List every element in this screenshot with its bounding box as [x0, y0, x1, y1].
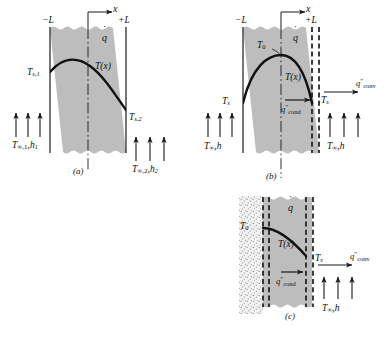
panel-a-caption: (a) [73, 167, 84, 176]
panel-c-curve-label: T(x) [278, 240, 294, 250]
panel-c-caption: (c) [285, 312, 295, 321]
panel-b-convection-arrows-right [330, 113, 358, 137]
panel-b-flux-cond-label: q″cond [281, 104, 301, 115]
panel-a-fluid-label-left: T∞,1,h1 [12, 141, 38, 151]
panel-a-tick-plus-L: +L [118, 16, 130, 26]
panel-b-surface-temp-left: Ts [222, 97, 230, 107]
figure-canvas: −L +L x q T(x) Ts,1 Ts,2 T∞,1,h1 T∞,2,h2… [0, 0, 390, 348]
panel-b-fluid-label-right: T∞,h [327, 142, 344, 152]
panel-b-convection-arrows-left [208, 113, 232, 137]
panel-b-tick-minus-L: −L [235, 16, 247, 26]
panel-a-surface-temp-right: Ts,2 [129, 113, 142, 123]
panel-b-surface-temp-right: Ts [321, 96, 329, 106]
panel-a-convection-arrows-left [16, 113, 40, 137]
panel-c-insulation-region [239, 196, 263, 314]
panel-a-group [16, 12, 164, 172]
panel-a-generation-label: q [102, 33, 107, 43]
panel-c-group [239, 196, 352, 314]
panel-a-curve-label: T(x) [95, 62, 111, 72]
panel-a-convection-arrows-right [136, 137, 164, 161]
panel-b-caption: (b) [266, 172, 277, 181]
panel-c-convection-arrows-right [324, 277, 352, 299]
diagram-vector-layer [0, 0, 390, 348]
panel-a-tick-minus-L: −L [42, 16, 54, 26]
panel-b-tick-plus-L: +L [305, 16, 317, 26]
panel-c-fluid-label-right: T∞,h [322, 304, 339, 314]
panel-c-flux-cond-label: q″cond [276, 276, 296, 287]
panel-c-wall-slab [263, 197, 312, 308]
panel-b-flux-conv-label: q″conv [356, 78, 376, 89]
panel-a-fluid-label-right: T∞,2,h2 [132, 165, 158, 175]
panel-b-fluid-label-left: T∞,h [204, 142, 221, 152]
panel-b-axis-x-label: x [306, 4, 310, 14]
panel-b-centerline-temp: T0 [257, 41, 266, 51]
panel-a-surface-temp-left: Ts,1 [27, 68, 40, 78]
panel-c-adiabatic-temp: T0 [240, 222, 249, 232]
panel-c-flux-conv-label: q″conv [350, 251, 370, 262]
panel-c-generation-label: q [288, 203, 293, 213]
panel-b-group [208, 12, 358, 178]
panel-c-surface-temp: Ts [315, 254, 323, 264]
panel-b-generation-label: q [293, 33, 298, 43]
panel-b-curve-label: T(x) [285, 73, 301, 83]
panel-a-axis-x-label: x [113, 4, 117, 14]
